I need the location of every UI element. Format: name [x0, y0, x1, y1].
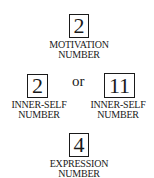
motivation-number-label: MOTIVATION NUMBER — [29, 40, 129, 60]
expression-number-box: 4 — [69, 133, 89, 157]
inner-self-right-label-line2: NUMBER — [68, 110, 154, 120]
motivation-number-box: 2 — [69, 14, 89, 38]
or-connector: or — [72, 74, 85, 89]
expression-number-label: EXPRESSION NUMBER — [29, 159, 129, 178]
inner-self-right-label: INNER-SELF NUMBER — [68, 100, 154, 120]
inner-self-number-right-box: 11 — [104, 73, 135, 98]
expression-label-line2: NUMBER — [29, 169, 129, 178]
motivation-label-line2: NUMBER — [29, 50, 129, 60]
inner-self-number-left-box: 2 — [27, 74, 48, 98]
